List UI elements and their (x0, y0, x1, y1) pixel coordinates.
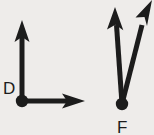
angle-diagram-canvas: D F (0, 0, 154, 135)
angle-diagram-svg: D F (0, 0, 154, 135)
ray-f-left-shaft (117, 25, 123, 104)
ray-f-right-arrowhead-icon (136, 0, 153, 26)
vertex-dot-f (116, 98, 128, 110)
angle-d-group: D (3, 20, 85, 109)
vertex-dot-d (16, 95, 28, 107)
ray-f-right-shaft (122, 25, 142, 104)
vertex-label-d: D (3, 79, 15, 98)
vertex-label-f: F (117, 118, 127, 135)
angle-f-group: F (107, 0, 152, 135)
